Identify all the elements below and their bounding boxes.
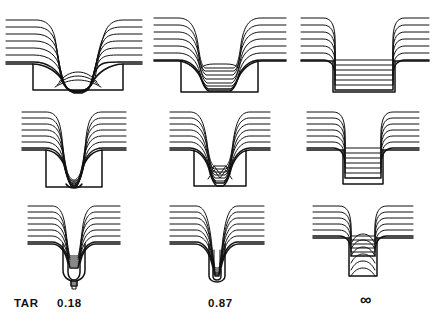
contour-set-r3c2 [170,206,264,276]
trench-outline-r1c3 [301,61,429,92]
panel-r3c1-svg [2,192,144,290]
panel-r1c2 [148,4,290,100]
panel-r3c1 [2,192,144,290]
contour-set-r1c3 [301,18,429,90]
contour-set-r3c3 [313,206,413,256]
panel-r3c2 [148,192,290,290]
trench-outline-r1c2 [154,61,286,92]
contour-set-r2c1 [22,112,126,186]
tar-value-column-2: 0.87 [208,296,233,310]
tar-value-column-3: ∞ [360,293,371,307]
panel-r3c3 [293,192,435,290]
contour-set-r1c1 [6,20,142,92]
contour-set-r2c3 [307,112,419,178]
panel-r1c2-svg [148,4,290,100]
panel-r1c3-svg [293,4,435,100]
trench-outline-r1c1 [6,64,142,93]
panel-r2c3-svg [293,100,435,192]
panel-r1c1 [2,4,144,100]
panel-r2c2-svg [148,100,290,192]
panel-r2c1 [2,100,144,192]
contour-set-r2c2 [170,112,270,183]
panel-r1c3 [293,4,435,100]
tar-value-column-1: 0.18 [57,296,82,310]
panel-r2c3 [293,100,435,192]
panel-r2c1-svg [2,100,144,192]
panel-r3c2-svg [148,192,290,290]
trench-outline-r2c3 [307,150,419,184]
panel-r2c2 [148,100,290,192]
label-row: TAR 0.18 0.87 ∞ [0,286,436,321]
contour-set-r3c1 [28,206,120,268]
contour-set-r1c2 [154,18,286,89]
plateau-r1c2 [201,64,239,68]
panel-r3c3-svg [293,192,435,290]
panel-r1c1-svg [2,4,144,100]
tar-row-label: TAR [14,296,39,310]
panel-grid [0,0,436,290]
figure-root: TAR 0.18 0.87 ∞ [0,0,436,321]
